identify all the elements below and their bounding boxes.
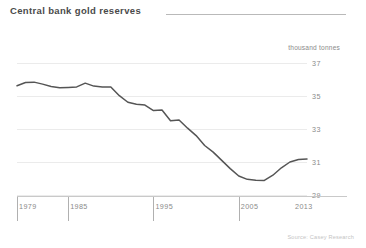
x-axis-tickmark-1985 — [68, 197, 69, 221]
x-axis-line — [17, 196, 347, 197]
x-axis-tick-label-1985: 1985 — [70, 202, 88, 211]
x-axis-tickmark-1979 — [17, 197, 18, 221]
source-credit: Source: Casey Research — [287, 234, 354, 240]
chart-container: Central bank gold reserves thousand tonn… — [0, 0, 366, 248]
gridline-37 — [17, 63, 307, 64]
x-axis-tick-label-2005: 2005 — [241, 202, 259, 211]
gridline-35 — [17, 96, 307, 97]
y-axis-tick-label-29: 29 — [312, 191, 321, 200]
y-axis-unit-label: thousand tonnes — [288, 44, 340, 51]
gridline-31 — [17, 162, 307, 163]
x-axis-tickmark-2005 — [239, 197, 240, 221]
x-axis-tick-label-1979: 1979 — [19, 202, 37, 211]
y-axis-tick-label-33: 33 — [312, 125, 321, 134]
y-axis-tick-label-37: 37 — [312, 59, 321, 68]
y-axis-tick-label-35: 35 — [312, 92, 321, 101]
plot-area: thousand tonnes 3735333129 1979198519952… — [0, 0, 366, 248]
x-axis-tickmark-1995 — [153, 197, 154, 221]
y-axis-tick-label-31: 31 — [312, 158, 321, 167]
gridline-33 — [17, 129, 307, 130]
x-axis-tick-label-1995: 1995 — [155, 202, 173, 211]
x-axis-tick-label-2013: 2013 — [295, 202, 313, 211]
